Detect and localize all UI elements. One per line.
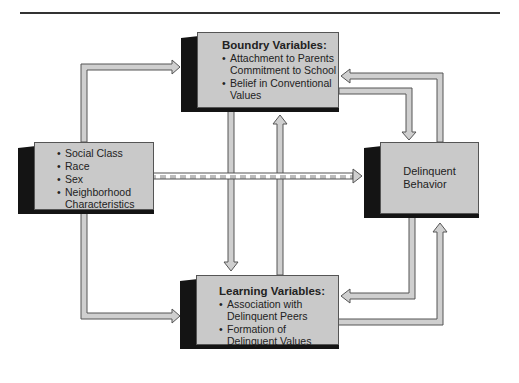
- learning-item: Formation ofDelinquent Values: [219, 323, 338, 347]
- boundary-variables-title: Boundry Variables:: [222, 39, 338, 51]
- arrow-learning-to-outcome: [338, 223, 447, 325]
- background-factors-box: Social Class Race Sex NeighborhoodCharac…: [18, 142, 154, 214]
- delinquent-behavior-face: Delinquent Behavior: [380, 142, 479, 214]
- arrow-background-to-learning: [81, 210, 180, 323]
- boundary-item: Attachment to ParentsCommitment to Schoo…: [222, 52, 338, 76]
- arrow-background-to-boundary: [81, 60, 180, 142]
- learning-variables-title: Learning Variables:: [219, 285, 338, 297]
- background-item: Race: [57, 160, 153, 172]
- boundary-variables-box: Boundry Variables: Attachment to Parents…: [181, 32, 339, 112]
- arrow-boundary-to-outcome: [339, 88, 416, 140]
- background-item: Social Class: [57, 147, 153, 159]
- learning-variables-face: Learning Variables: Association withDeli…: [196, 275, 339, 345]
- outcome-line-2: Behavior: [403, 178, 456, 191]
- boundary-variables-face: Boundry Variables: Attachment to Parents…: [197, 32, 339, 108]
- arrow-learning-to-boundary: [273, 115, 287, 275]
- delinquent-behavior-box: Delinquent Behavior: [364, 142, 479, 218]
- learning-item: Association withDelinquent Peers: [219, 298, 338, 322]
- learning-variables-box: Learning Variables: Association withDeli…: [180, 275, 339, 349]
- background-item: Sex: [57, 173, 153, 185]
- arrow-outcome-to-boundary: [341, 69, 443, 142]
- background-factors-face: Social Class Race Sex NeighborhoodCharac…: [34, 142, 154, 210]
- arrow-outcome-to-learning: [341, 215, 415, 303]
- boundary-item: Belief in ConventionalValues: [222, 77, 338, 101]
- arrow-background-to-outcome: [153, 169, 362, 183]
- outcome-line-1: Delinquent: [403, 165, 456, 178]
- background-item: NeighborhoodCharacteristics: [57, 186, 153, 210]
- arrow-boundary-to-learning: [224, 110, 238, 271]
